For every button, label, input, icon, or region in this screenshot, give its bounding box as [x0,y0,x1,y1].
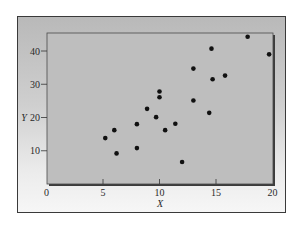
y-tick-label: 40 [30,46,40,57]
data-point [145,107,150,112]
y-axis: 10203040 [30,46,47,157]
data-point [180,160,185,165]
y-axis-title: Y [21,112,28,123]
x-tick-label: 5 [101,187,106,198]
data-point [191,98,196,103]
scatter-chart: 10203040 05101520 X Y [0,0,301,225]
data-point [135,122,140,127]
data-point [114,151,119,156]
data-point [112,128,117,133]
x-tick-label: 20 [268,187,278,198]
x-tick-label: 0 [44,187,49,198]
data-point [209,46,214,51]
data-point [103,136,108,141]
plot-area [47,33,273,184]
data-point [223,73,228,78]
data-point [207,111,212,116]
x-axis-title: X [156,198,164,209]
data-point [191,66,196,71]
y-tick-label: 20 [30,112,40,123]
data-point [173,122,178,127]
data-point [135,146,140,151]
x-tick-label: 10 [155,187,165,198]
data-point [163,128,168,133]
y-tick-label: 10 [30,145,40,156]
data-point [210,77,215,82]
data-point [157,95,162,100]
y-tick-label: 30 [30,79,40,90]
data-point [245,34,250,39]
x-tick-label: 15 [211,187,221,198]
data-point [267,52,272,57]
data-point [157,89,162,94]
data-point [154,115,159,120]
